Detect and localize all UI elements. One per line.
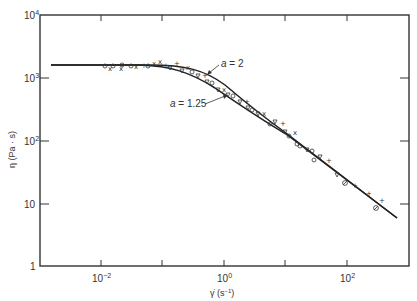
svg-text:+: + [352, 182, 358, 190]
svg-text:10: 10 [24, 199, 36, 210]
svg-text:x: x [293, 129, 297, 137]
data-markers: x x x + x x + + x + x + x + x + + + + [103, 58, 385, 210]
svg-text:+: + [174, 60, 180, 68]
viscosity-shear-rate-chart: 104 103 102 10 1 10−2 100 102 γ̇ (s−1) η… [0, 0, 417, 301]
svg-text:103: 103 [24, 72, 39, 84]
svg-text:+: + [202, 72, 208, 80]
svg-text:+: + [280, 120, 286, 128]
x-axis-label: γ̇ (s−1) [210, 288, 234, 298]
svg-text:x: x [119, 65, 123, 73]
svg-text:104: 104 [24, 9, 39, 21]
annotation-a125: a = 1.25 [170, 94, 228, 109]
svg-text:x: x [152, 60, 156, 68]
svg-text:x: x [262, 110, 266, 118]
annotation-a2: a = 2 [207, 58, 244, 75]
svg-text:+: + [326, 157, 332, 165]
plot-frame [40, 15, 409, 266]
y-tick-labels: 104 103 102 10 1 [24, 9, 39, 272]
svg-text:10−2: 10−2 [92, 272, 111, 284]
svg-text:+: + [244, 98, 250, 106]
svg-text:100: 100 [217, 272, 232, 284]
svg-text:a = 2: a = 2 [221, 58, 244, 69]
y-axis-label: η (Pa · s) [7, 131, 17, 168]
svg-text:x: x [108, 65, 112, 73]
svg-text:1: 1 [30, 261, 36, 272]
svg-text:x: x [134, 63, 138, 71]
svg-text:102: 102 [340, 272, 355, 284]
svg-text:x: x [186, 64, 190, 72]
svg-text:+: + [379, 197, 385, 205]
svg-text:102: 102 [24, 135, 39, 147]
svg-text:a = 1.25: a = 1.25 [170, 98, 207, 109]
svg-text:x: x [158, 58, 162, 66]
svg-text:+: + [366, 190, 372, 198]
x-tick-labels: 10−2 100 102 [92, 272, 355, 284]
x-axis-ticks [101, 15, 347, 266]
